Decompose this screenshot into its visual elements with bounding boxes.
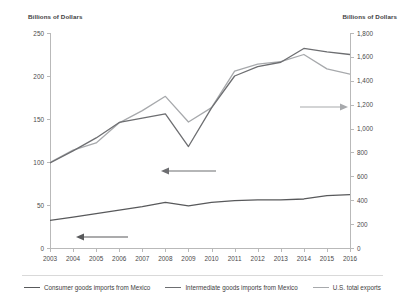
x-tick-label: 2014 (292, 255, 316, 262)
y-tick-mark-right (351, 248, 354, 249)
x-tick-label: 2004 (61, 255, 85, 262)
y-tick-label-left: 50 (18, 202, 44, 209)
x-tick-label: 2013 (269, 255, 293, 262)
y-tick-label-left: 250 (18, 30, 44, 37)
x-axis (50, 248, 351, 249)
x-tick-mark (165, 249, 166, 252)
y-tick-mark-right (351, 33, 354, 34)
legend-item[interactable]: U.S. total exports (313, 284, 381, 291)
right-axis-caption: Billions of Dollars (343, 13, 398, 20)
x-tick-mark (212, 249, 213, 252)
x-tick-mark (96, 249, 97, 252)
y-axis-right (350, 33, 351, 248)
line-us-total-exports (50, 55, 350, 163)
x-tick-mark (142, 249, 143, 252)
x-tick-label: 2009 (176, 255, 200, 262)
legend-swatch-line-icon (313, 287, 329, 288)
x-tick-label: 2012 (246, 255, 270, 262)
x-tick-label: 2016 (338, 255, 362, 262)
arrow-left-consumer-icon (76, 234, 128, 241)
y-tick-label-right: 1,800 (357, 30, 373, 37)
x-tick-mark (304, 249, 305, 252)
arrow-left-intermediate-icon (161, 168, 216, 175)
x-tick-label: 2015 (315, 255, 339, 262)
y-tick-label-right: 1,600 (357, 53, 373, 60)
y-tick-label-right: 200 (357, 221, 368, 228)
y-tick-label-right: 1,400 (357, 77, 373, 84)
y-tick-label-right: 1,000 (357, 125, 373, 132)
x-tick-label: 2005 (84, 255, 108, 262)
y-tick-mark-right (351, 105, 354, 106)
left-axis-caption: Billions of Dollars (28, 13, 83, 20)
x-tick-mark (73, 249, 74, 252)
y-tick-label-left: 150 (18, 116, 44, 123)
chart-legend: Consumer goods imports from MexicoInterm… (0, 284, 405, 291)
x-tick-label: 2008 (153, 255, 177, 262)
y-tick-mark-right (351, 129, 354, 130)
x-tick-mark (258, 249, 259, 252)
legend-swatch-line-icon (24, 287, 40, 288)
x-tick-mark (235, 249, 236, 252)
arrow-right-exports-icon (300, 104, 348, 111)
y-tick-mark-right (351, 57, 354, 58)
legend-label: Intermediate goods imports from Mexico (185, 284, 297, 291)
plot-area (50, 33, 350, 248)
legend-label: U.S. total exports (333, 284, 381, 291)
chart-container: Billions of Dollars Billions of Dollars … (0, 0, 405, 306)
y-tick-label-left: 0 (18, 245, 44, 252)
y-tick-label-right: 0 (357, 245, 361, 252)
series-lines (50, 33, 350, 248)
y-tick-mark-right (351, 152, 354, 153)
line-intermediate-goods-imports (50, 48, 350, 162)
x-tick-label: 2007 (130, 255, 154, 262)
y-tick-label-left: 200 (18, 73, 44, 80)
legend-swatch-line-icon (165, 287, 181, 288)
y-tick-label-right: 800 (357, 149, 368, 156)
x-tick-mark (281, 249, 282, 252)
y-tick-label-right: 1,200 (357, 101, 373, 108)
x-tick-label: 2003 (38, 255, 62, 262)
y-tick-mark-right (351, 200, 354, 201)
x-tick-label: 2006 (107, 255, 131, 262)
y-tick-label-right: 600 (357, 173, 368, 180)
y-tick-mark-right (351, 224, 354, 225)
x-tick-mark (50, 249, 51, 252)
x-tick-label: 2010 (200, 255, 224, 262)
line-consumer-goods-imports (50, 195, 350, 221)
y-tick-mark-right (351, 176, 354, 177)
x-tick-label: 2011 (223, 255, 247, 262)
x-tick-mark (327, 249, 328, 252)
x-tick-mark (350, 249, 351, 252)
x-tick-mark (119, 249, 120, 252)
y-tick-label-left: 100 (18, 159, 44, 166)
y-tick-mark-right (351, 81, 354, 82)
legend-item[interactable]: Consumer goods imports from Mexico (24, 284, 150, 291)
legend-item[interactable]: Intermediate goods imports from Mexico (165, 284, 297, 291)
legend-label: Consumer goods imports from Mexico (44, 284, 150, 291)
y-tick-label-right: 400 (357, 197, 368, 204)
x-tick-mark (188, 249, 189, 252)
